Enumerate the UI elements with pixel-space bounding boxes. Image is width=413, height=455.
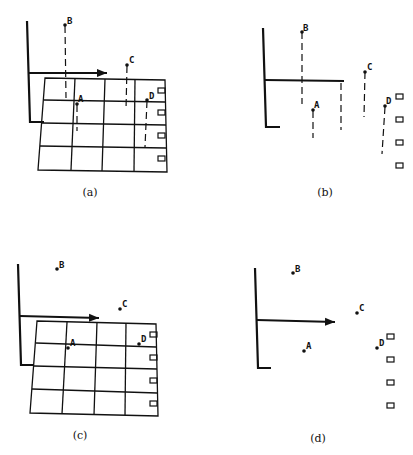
points [291,271,379,353]
svg-text:C: C [129,55,134,65]
vertical-axis [263,28,280,127]
panel-c: B A C D [18,260,158,416]
svg-text:D: D [141,334,147,344]
side-markers [387,334,394,408]
panel-a-caption: (a) [82,186,97,199]
svg-text:A: A [314,100,320,110]
panel-d-caption: (d) [310,432,326,445]
svg-text:D: D [149,91,155,101]
ground-grid [30,321,158,416]
vertical-axis [27,21,44,122]
vertical-axis [18,264,34,365]
panel-a: B A C D [27,16,167,172]
svg-text:C: C [359,303,364,313]
horizontal-axis [257,320,335,322]
panel-b-caption: (b) [317,186,333,199]
drop-lines [302,32,385,154]
vertical-axis [255,268,271,368]
horizontal-axis [20,316,99,318]
panel-c-caption: (c) [73,429,88,442]
panel-b: B A C D [263,23,403,168]
svg-text:C: C [122,299,127,309]
svg-text:B: B [59,260,65,270]
points [63,23,149,106]
figure-canvas: B A C D B A C D [0,0,413,455]
svg-text:B: B [303,23,309,33]
svg-text:D: D [379,338,385,348]
ground-grid [38,78,167,172]
points [55,267,141,350]
panel-d: B A C D [255,264,394,408]
horizontal-axis [265,80,344,81]
svg-text:B: B [295,264,301,274]
side-markers [396,94,403,168]
svg-text:C: C [367,62,372,72]
svg-text:A: A [70,338,76,348]
svg-text:B: B [67,16,73,26]
svg-text:A: A [306,341,312,351]
svg-text:A: A [78,94,84,104]
svg-text:D: D [386,96,392,106]
